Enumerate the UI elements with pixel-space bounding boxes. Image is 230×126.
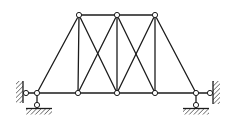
joint-B0: [34, 90, 39, 95]
joint-PL: [34, 102, 39, 107]
joint-B3: [152, 90, 157, 95]
joint-B2: [114, 90, 119, 95]
ground-hatch-1: [183, 109, 209, 115]
joint-WL: [23, 90, 28, 95]
truss-svg: [0, 0, 230, 126]
joint-WR: [207, 90, 212, 95]
wall-hatch-left: [16, 81, 23, 103]
truss-figure: [0, 0, 230, 126]
joint-T2: [114, 12, 119, 17]
joint-B4: [193, 90, 198, 95]
wall-hatch-right: [213, 81, 220, 104]
joint-T1: [76, 12, 81, 17]
diagram-layer: [0, 0, 230, 126]
joint-T3: [152, 12, 157, 17]
ground-hatch-0: [26, 109, 52, 115]
joint-B1: [75, 90, 80, 95]
joint-PR: [193, 102, 198, 107]
